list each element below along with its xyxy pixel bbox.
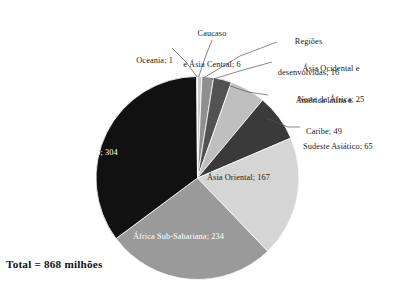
callout-asia-ocidental-line1: Ásia Ocidental e bbox=[272, 64, 390, 74]
callout-sudeste-line1: Sudeste Asiático; 65 bbox=[303, 142, 395, 152]
total-caption: Total = 868 milhões bbox=[6, 258, 102, 270]
callout-caucaso-line1: Caucaso bbox=[153, 29, 271, 39]
callout-label-caucaso: Caucaso e Ásia Central; 6 bbox=[153, 9, 271, 91]
callout-america-latina-line1: América latina e bbox=[268, 96, 380, 106]
slice-label-sul-asiatico: Sul Asiático; 304 bbox=[59, 148, 118, 158]
callout-caucaso-line2: e Ásia Central; 6 bbox=[153, 60, 271, 70]
slice-label-asia-oriental: Ásia Oriental; 167 bbox=[207, 173, 270, 183]
pie-chart-figure: Oceania; 1 Caucaso e Ásia Central; 6 Reg… bbox=[0, 0, 395, 295]
callout-label-sudeste-asiatico: Sudeste Asiático; 65 bbox=[303, 122, 395, 173]
slice-label-africa-sub-sahariana: África Sub-Sahariana; 234 bbox=[133, 232, 224, 242]
